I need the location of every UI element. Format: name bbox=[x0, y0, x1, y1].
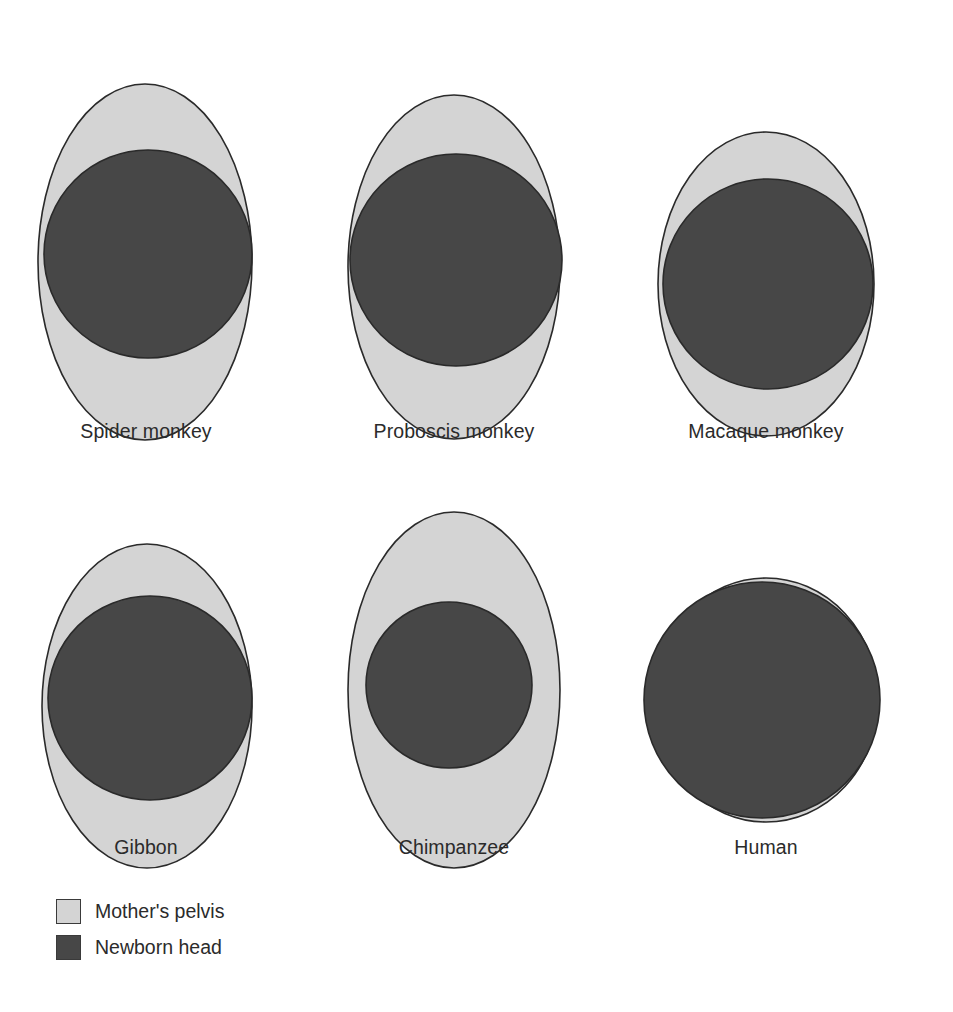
panel-proboscis-monkey: Proboscis monkey bbox=[308, 55, 600, 445]
gibbon-drawing bbox=[0, 518, 292, 888]
human-drawing bbox=[620, 540, 912, 870]
newborn-head-human bbox=[644, 582, 880, 818]
legend: Mother's pelvis Newborn head bbox=[56, 893, 224, 965]
macaque-monkey-drawing bbox=[620, 82, 912, 442]
panel-gibbon: Gibbon bbox=[0, 518, 292, 888]
panel-label-chimpanzee: Chimpanzee bbox=[308, 836, 600, 859]
proboscis-monkey-drawing bbox=[308, 55, 600, 445]
panel-macaque-monkey: Macaque monkey bbox=[620, 82, 912, 442]
legend-item-newborn-head: Newborn head bbox=[56, 929, 224, 965]
newborn-head-chimpanzee bbox=[366, 602, 532, 768]
newborn-head-macaque-monkey bbox=[663, 179, 873, 389]
legend-item-mothers-pelvis: Mother's pelvis bbox=[56, 893, 224, 929]
legend-label-mothers-pelvis: Mother's pelvis bbox=[95, 900, 224, 923]
panel-label-spider-monkey: Spider monkey bbox=[0, 420, 292, 443]
panel-label-proboscis-monkey: Proboscis monkey bbox=[308, 420, 600, 443]
chimpanzee-drawing bbox=[308, 500, 600, 890]
legend-swatch-mothers-pelvis bbox=[56, 899, 81, 924]
legend-swatch-newborn-head bbox=[56, 935, 81, 960]
panel-label-macaque-monkey: Macaque monkey bbox=[620, 420, 912, 443]
newborn-head-gibbon bbox=[48, 596, 252, 800]
panel-label-human: Human bbox=[620, 836, 912, 859]
newborn-head-spider-monkey bbox=[44, 150, 252, 358]
panel-chimpanzee: Chimpanzee bbox=[308, 500, 600, 890]
panel-human: Human bbox=[620, 540, 912, 870]
panel-label-gibbon: Gibbon bbox=[0, 836, 292, 859]
primate-pelvis-comparison-figure: Spider monkey Proboscis monkey Macaque m… bbox=[0, 0, 953, 1012]
legend-label-newborn-head: Newborn head bbox=[95, 936, 222, 959]
newborn-head-proboscis-monkey bbox=[350, 154, 562, 366]
spider-monkey-drawing bbox=[0, 42, 292, 442]
panel-spider-monkey: Spider monkey bbox=[0, 42, 292, 442]
